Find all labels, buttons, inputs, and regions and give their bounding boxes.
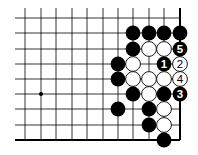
white-stone (126, 72, 141, 87)
black-stone (111, 102, 126, 117)
black-stone (142, 102, 157, 117)
black-stone (142, 26, 157, 41)
black-stone (142, 118, 157, 133)
star-point (39, 92, 43, 96)
move-3-stone: 3 (173, 87, 188, 102)
move-5-stone: 5 (173, 42, 188, 57)
white-stone (142, 42, 157, 57)
white-stone (157, 42, 172, 57)
white-stone (142, 87, 157, 102)
black-stone (157, 87, 172, 102)
move-number-label: 1 (161, 58, 168, 70)
move-2-stone: 2 (173, 57, 188, 72)
white-stone (157, 102, 172, 117)
black-stone (111, 57, 126, 72)
go-board-diagram: 51243 (0, 0, 198, 155)
move-4-stone: 4 (173, 72, 188, 87)
black-stone (173, 26, 188, 41)
move-number-label: 2 (177, 58, 183, 70)
move-number-label: 4 (177, 73, 184, 85)
black-stone (126, 26, 141, 41)
white-stone (142, 72, 157, 87)
black-stone (111, 72, 126, 87)
black-stone (126, 42, 141, 57)
board-svg: 51243 (0, 0, 198, 155)
white-stone (157, 118, 172, 133)
black-stone (126, 87, 141, 102)
move-number-label: 5 (177, 43, 184, 55)
black-stone (157, 133, 172, 148)
white-stone (157, 72, 172, 87)
black-stone (157, 26, 172, 41)
white-stone (126, 57, 141, 72)
grid-lines (15, 8, 180, 140)
move-number-label: 3 (177, 88, 183, 100)
move-1-stone: 1 (157, 57, 172, 72)
